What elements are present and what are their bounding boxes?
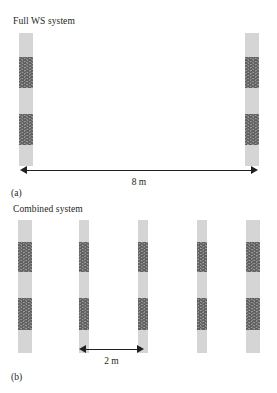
panel-a-wall-right xyxy=(245,33,259,166)
panel-a-caption: (a) xyxy=(11,188,22,198)
wall-segment-light xyxy=(197,220,207,242)
wall-segment-hatched xyxy=(197,298,207,330)
panel-b-wall-3 xyxy=(138,220,148,353)
panel-full-ws-system: Full WS system 8 m (a) xyxy=(0,0,277,200)
panel-b-wall-1 xyxy=(18,220,32,353)
wall-segment-hatched xyxy=(246,298,260,330)
wall-segment-hatched xyxy=(18,242,32,272)
wall-segment-light xyxy=(245,33,259,57)
wall-segment-light xyxy=(246,330,260,353)
arrow-line xyxy=(83,349,140,350)
panel-b-wall-4 xyxy=(197,220,207,353)
wall-segment-light xyxy=(197,272,207,298)
wall-segment-hatched xyxy=(138,242,148,272)
wall-segment-light xyxy=(138,220,148,242)
wall-segment-light xyxy=(246,272,260,298)
panel-b-wall-5 xyxy=(246,220,260,353)
panel-a-title: Full WS system xyxy=(13,16,75,26)
wall-segment-hatched xyxy=(79,242,89,272)
panel-combined-system: Combined system xyxy=(0,200,277,393)
wall-segment-light xyxy=(19,88,33,114)
panel-a-dimension-label: 8 m xyxy=(20,177,258,187)
wall-segment-light xyxy=(138,272,148,298)
arrow-head-right-icon xyxy=(251,166,258,174)
arrow-line xyxy=(24,170,254,171)
panel-a-wall-left xyxy=(19,33,33,166)
arrow-head-right-icon xyxy=(137,345,144,353)
panel-b-caption: (b) xyxy=(11,372,22,382)
wall-segment-light xyxy=(79,272,89,298)
panel-b-dimension-arrow xyxy=(79,345,144,355)
wall-segment-light xyxy=(79,220,89,242)
wall-segment-hatched xyxy=(138,298,148,330)
wall-segment-hatched xyxy=(246,242,260,272)
figure-wall-systems: Full WS system 8 m (a) Combined syste xyxy=(0,0,277,393)
wall-segment-light xyxy=(245,88,259,114)
panel-b-wall-2 xyxy=(79,220,89,353)
wall-segment-hatched xyxy=(245,114,259,145)
wall-segment-hatched xyxy=(79,298,89,330)
panel-b-title: Combined system xyxy=(13,204,83,214)
wall-segment-light xyxy=(197,330,207,353)
wall-segment-light xyxy=(19,145,33,166)
wall-segment-hatched xyxy=(19,114,33,145)
panel-a-dimension-arrow xyxy=(20,166,258,176)
wall-segment-light xyxy=(245,145,259,166)
wall-segment-hatched xyxy=(18,298,32,330)
wall-segment-hatched xyxy=(245,57,259,88)
wall-segment-light xyxy=(19,33,33,57)
wall-segment-light xyxy=(18,272,32,298)
wall-segment-light xyxy=(18,330,32,353)
wall-segment-light xyxy=(246,220,260,242)
panel-b-dimension-label: 2 m xyxy=(79,356,144,366)
wall-segment-hatched xyxy=(19,57,33,88)
wall-segment-light xyxy=(18,220,32,242)
wall-segment-hatched xyxy=(197,242,207,272)
